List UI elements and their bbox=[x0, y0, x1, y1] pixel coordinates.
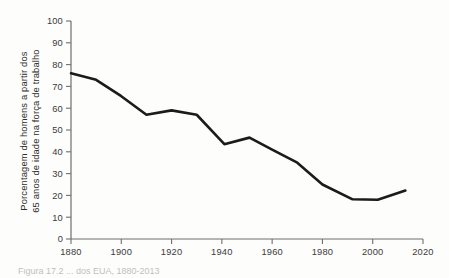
x-tick-label: 1880 bbox=[60, 247, 81, 257]
y-tick-label: 20 bbox=[52, 191, 63, 201]
data-series-group bbox=[71, 73, 405, 199]
figure-line-chart: Porcentagem de homens a partir dos 65 an… bbox=[0, 0, 449, 278]
x-tick-label: 2000 bbox=[362, 247, 383, 257]
y-tick-label: 100 bbox=[47, 16, 63, 26]
chart-canvas: 0102030405060708090100 18801900192019401… bbox=[0, 0, 449, 278]
x-tick-label: 1940 bbox=[211, 247, 232, 257]
y-tick-label: 50 bbox=[52, 125, 63, 135]
y-tick-label: 70 bbox=[52, 82, 63, 92]
y-tick-label: 60 bbox=[52, 104, 63, 114]
x-tick-label: 1980 bbox=[312, 247, 333, 257]
y-tick-label: 80 bbox=[52, 60, 63, 70]
x-axis: 18801900192019401960198020002020 bbox=[60, 239, 433, 257]
x-tick-label: 2020 bbox=[412, 247, 433, 257]
x-tick-label: 1900 bbox=[111, 247, 132, 257]
y-tick-label: 0 bbox=[58, 234, 63, 244]
figure-caption-clipped: Figura 17.2 ... dos EUA, 1880-2013 bbox=[18, 268, 430, 278]
y-tick-label: 90 bbox=[52, 38, 63, 48]
y-axis-ticks: 0102030405060708090100 bbox=[47, 16, 71, 244]
y-tick-label: 10 bbox=[52, 213, 63, 223]
y-tick-label: 40 bbox=[52, 147, 63, 157]
figure-caption-text: Figura 17.2 ... dos EUA, 1880-2013 bbox=[18, 268, 160, 276]
y-axis: 0102030405060708090100 bbox=[47, 16, 71, 244]
data-line-series-0 bbox=[71, 73, 405, 199]
y-tick-label: 30 bbox=[52, 169, 63, 179]
x-axis-ticks: 18801900192019401960198020002020 bbox=[60, 239, 433, 257]
x-tick-label: 1960 bbox=[261, 247, 282, 257]
x-tick-label: 1920 bbox=[161, 247, 182, 257]
